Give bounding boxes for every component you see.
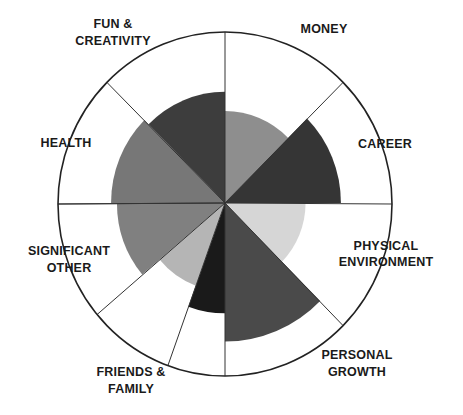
label-personal-growth-line2: GROWTH — [328, 365, 386, 379]
label-health: HEALTH — [41, 136, 92, 150]
label-fun-creativity-line2: CREATIVITY — [75, 34, 151, 48]
label-physical-environment-line1: PHYSICAL — [354, 239, 419, 253]
label-significant-other-line1: SIGNIFICANT — [28, 244, 110, 258]
label-friends-family-line1: FRIENDS & — [96, 365, 165, 379]
spokes — [58, 32, 392, 376]
label-physical-environment-line2: ENVIRONMENT — [339, 255, 434, 269]
wheel-of-life-chart: FUN & CREATIVITY MONEY HEALTH CAREER SIG… — [0, 0, 463, 415]
label-personal-growth-line1: PERSONAL — [321, 348, 392, 362]
label-career: CAREER — [358, 137, 412, 151]
label-fun-creativity-line1: FUN & — [93, 17, 132, 31]
label-significant-other-line2: OTHER — [47, 261, 92, 275]
label-friends-family-line2: FAMILY — [108, 382, 154, 396]
label-money: MONEY — [301, 22, 348, 36]
segment-fills — [111, 92, 341, 342]
